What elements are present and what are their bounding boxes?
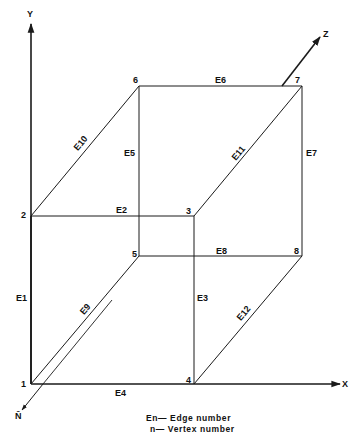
edge-e4-label: E4 bbox=[115, 389, 126, 398]
y-axis-label: Y bbox=[27, 10, 33, 19]
normal-label: N̄ bbox=[15, 412, 22, 421]
legend-vertex-number: n— Vertex number bbox=[146, 424, 235, 435]
vertex-2-label: 2 bbox=[21, 211, 26, 220]
edge-e7-label: E7 bbox=[306, 149, 317, 158]
e9-parallel-line bbox=[43, 300, 112, 384]
vertex-7-label: 7 bbox=[295, 76, 300, 85]
vertex-8-label: 8 bbox=[294, 247, 299, 256]
edge-e11 bbox=[194, 86, 302, 216]
vertex-4-label: 4 bbox=[186, 376, 191, 385]
z-axis-label: Z bbox=[323, 30, 329, 39]
edge-e9 bbox=[31, 256, 139, 384]
edge-e10 bbox=[31, 86, 139, 216]
edge-e2-label: E2 bbox=[116, 206, 127, 215]
cube-diagram bbox=[0, 0, 356, 448]
edge-e3-label: E3 bbox=[197, 294, 208, 303]
edge-e6-label: E6 bbox=[215, 76, 226, 85]
edge-e8-label: E8 bbox=[216, 247, 227, 256]
edge-e5-label: E5 bbox=[124, 149, 135, 158]
vertex-3-label: 3 bbox=[186, 207, 191, 216]
edge-e1-label: E1 bbox=[16, 294, 27, 303]
legend: En— Edge number n— Vertex number bbox=[146, 413, 235, 435]
vertex-1-label: 1 bbox=[21, 380, 26, 389]
vertex-6-label: 6 bbox=[133, 76, 138, 85]
x-axis-label: X bbox=[342, 380, 348, 389]
vertex-5-label: 5 bbox=[132, 250, 137, 259]
z-axis bbox=[282, 37, 320, 86]
legend-edge-number: En— Edge number bbox=[146, 413, 235, 424]
edge-e12 bbox=[194, 256, 302, 384]
